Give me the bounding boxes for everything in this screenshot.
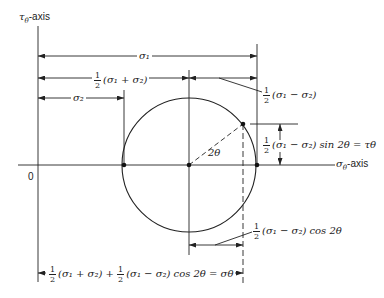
sigma-symbol: σ	[336, 158, 343, 169]
fraction-den: 2	[264, 96, 269, 105]
fraction-num: 1	[263, 86, 270, 96]
sigma1-point	[255, 163, 260, 168]
tau-suffix: -axis	[29, 11, 50, 22]
half-diff-label: 12(σ₁ − σ₂)	[263, 86, 316, 105]
sigma-axis-label: σθ-axis	[336, 159, 368, 172]
tau-axis-label: τθ-axis	[19, 12, 50, 25]
half-diff-text: (σ₁ − σ₂)	[272, 89, 316, 100]
cos-term-label: 12(σ₁ − σ₂) cos 2θ	[253, 222, 342, 241]
origin-label: 0	[28, 172, 34, 182]
cos-term-text: (σ₁ − σ₂) cos 2θ	[262, 225, 342, 236]
stress-point	[241, 122, 246, 127]
normal-stress-label: 12(σ₁ + σ₂) + 12(σ₁ − σ₂) cos 2θ = σθ	[49, 265, 233, 284]
sigma-suffix: -axis	[347, 158, 368, 169]
sigma1-label: σ₁	[137, 51, 152, 61]
fraction-den: 2	[264, 146, 269, 155]
half-sum-label: 12(σ₁ + σ₂)	[92, 71, 149, 90]
sigma2-point	[122, 163, 127, 168]
normal-suffix-text: (σ₁ − σ₂) cos 2θ = σθ	[126, 268, 233, 279]
half-sum-text: (σ₁ + σ₂)	[103, 74, 147, 85]
fraction-den: 2	[95, 81, 100, 90]
shear-text: (σ₁ − σ₂) sin 2θ = τθ	[272, 139, 376, 150]
shear-stress-label: 12(σ₁ − σ₂) sin 2θ = τθ	[263, 136, 376, 155]
sigma2-label: σ₂	[71, 93, 86, 103]
fraction-den: 2	[254, 232, 259, 241]
fraction-num: 1	[94, 71, 101, 81]
fraction-den: 2	[50, 275, 55, 284]
center-point	[187, 163, 192, 168]
angle-label: 2θ	[208, 148, 220, 158]
fraction-num: 1	[117, 265, 124, 275]
fraction-num: 1	[263, 136, 270, 146]
fraction-den: 2	[118, 275, 123, 284]
fraction-num: 1	[49, 265, 56, 275]
normal-prefix-text: (σ₁ + σ₂) +	[58, 268, 114, 279]
radius-line	[189, 124, 243, 165]
fraction-num: 1	[253, 222, 260, 232]
